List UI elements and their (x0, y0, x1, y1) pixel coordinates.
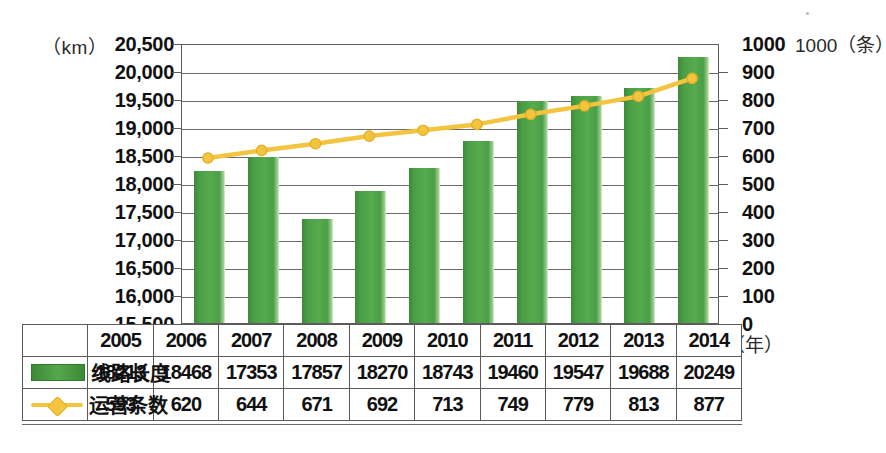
bar-line-length (248, 157, 279, 323)
right-tick-label: 900 (742, 61, 774, 84)
table-bottom-rule (22, 424, 742, 425)
table-value-cell: 18213 (88, 357, 153, 389)
table-value-cell: 17857 (284, 357, 349, 389)
table-value-cell: 713 (415, 389, 480, 421)
left-tick-label: 17,500 (54, 201, 174, 224)
table-value-cell: 20249 (676, 357, 741, 389)
left-tick-mark (172, 240, 181, 241)
legend-bar-swatch-icon (31, 364, 85, 381)
bar-line-length (409, 168, 440, 323)
right-tick-label: 400 (742, 201, 774, 224)
gridline (182, 73, 718, 74)
table-value-cell: 644 (219, 389, 284, 421)
right-tick-label: 600 (742, 145, 774, 168)
right-tick-label: 800 (742, 89, 774, 112)
left-tick-mark (172, 268, 181, 269)
left-tick-mark (172, 128, 181, 129)
data-table: 2005200620072008200920102011201220132014… (22, 324, 742, 421)
right-tick-label: 1000 (742, 33, 785, 56)
bar-line-length (463, 141, 494, 323)
plot-area (181, 44, 719, 324)
table-value-cell: 17353 (219, 357, 284, 389)
table-year-header: 2014 (676, 325, 741, 357)
table-year-header: 2010 (415, 325, 480, 357)
right-tick-label: 700 (742, 117, 774, 140)
bar-line-length (194, 171, 225, 323)
left-tick-label: 17,000 (54, 229, 174, 252)
table-year-header: 2011 (480, 325, 545, 357)
table-row: 线路长度182131846817353178571827018743194601… (23, 357, 742, 389)
left-tick-mark (172, 296, 181, 297)
right-tick-label: 300 (742, 229, 774, 252)
bar-line-length (517, 101, 548, 323)
right-tick-mark (719, 128, 728, 129)
left-tick-label: 20,000 (54, 61, 174, 84)
left-tick-mark (172, 72, 181, 73)
left-tick-label: 18,500 (54, 145, 174, 168)
left-tick-mark (172, 100, 181, 101)
left-tick-label: 19,000 (54, 117, 174, 140)
table-legend-cell: 线路长度 (23, 357, 88, 389)
right-axis-tick-labels: 10009008007006005004003002001000 (742, 0, 832, 453)
legend-line-swatch-icon (31, 397, 83, 412)
bar-line-length (571, 96, 602, 323)
table-row: 运营条数593620644671692713749779813877 (23, 389, 742, 421)
right-tick-mark (719, 240, 728, 241)
table-value-cell: 813 (611, 389, 676, 421)
left-tick-mark (172, 212, 181, 213)
table-value-cell: 18270 (349, 357, 414, 389)
left-tick-label: 19,500 (54, 89, 174, 112)
right-tick-mark (719, 268, 728, 269)
right-tick-label: 100 (742, 285, 774, 308)
bar-line-length (302, 219, 333, 323)
right-tick-label: 0 (742, 313, 753, 336)
right-tick-mark (719, 100, 728, 101)
left-tick-mark (172, 184, 181, 185)
right-tick-mark (719, 72, 728, 73)
right-tick-mark (719, 184, 728, 185)
table-value-cell: 19688 (611, 357, 676, 389)
right-tick-mark (719, 212, 728, 213)
table-value-cell: 18743 (415, 357, 480, 389)
left-tick-mark (172, 156, 181, 157)
table-year-header: 2006 (153, 325, 218, 357)
left-tick-label: 16,000 (54, 285, 174, 308)
table-legend-cell: 运营条数 (23, 389, 88, 421)
left-tick-label: 16,500 (54, 257, 174, 280)
right-tick-mark (719, 156, 728, 157)
left-tick-label: 18,000 (54, 173, 174, 196)
bar-line-length (355, 191, 386, 323)
left-tick-label: 20,500 (54, 33, 174, 56)
table-year-header: 2009 (349, 325, 414, 357)
table-value-cell: 19460 (480, 357, 545, 389)
table-corner-cell (23, 325, 88, 357)
table-year-header: 2013 (611, 325, 676, 357)
table-header-row: 2005200620072008200920102011201220132014 (23, 325, 742, 357)
right-tick-label: 500 (742, 173, 774, 196)
table-value-cell: 692 (349, 389, 414, 421)
bar-line-length (624, 88, 655, 323)
table-value-cell: 19547 (545, 357, 610, 389)
table-year-header: 2005 (88, 325, 153, 357)
table-value-cell: 18468 (153, 357, 218, 389)
table-value-cell: 749 (480, 389, 545, 421)
table-year-header: 2007 (219, 325, 284, 357)
bar-line-length (678, 57, 709, 323)
right-tick-label: 200 (742, 257, 774, 280)
right-tick-mark (719, 296, 728, 297)
table-value-cell: 779 (545, 389, 610, 421)
table-year-header: 2008 (284, 325, 349, 357)
left-tick-mark (172, 44, 181, 45)
table-value-cell: 877 (676, 389, 741, 421)
table-year-header: 2012 (545, 325, 610, 357)
table-value-cell: 671 (284, 389, 349, 421)
